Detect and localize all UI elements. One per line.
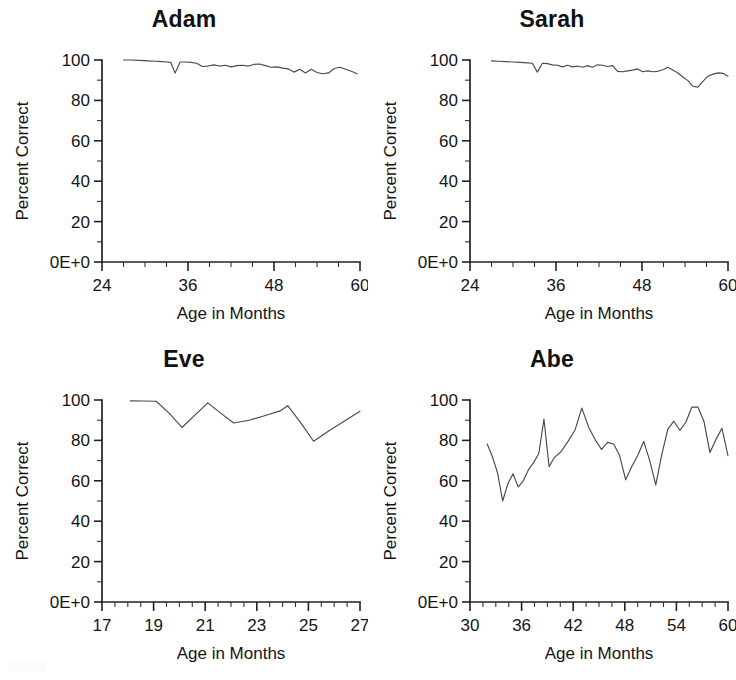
multi-panel-figure: Adam 0E+02040608010024364860Age in Month… — [0, 0, 736, 680]
x-tick-label: 36 — [512, 616, 531, 635]
y-tick-label: 100 — [430, 391, 458, 410]
y-tick-label: 0E+0 — [418, 593, 458, 612]
y-tick-label: 20 — [439, 213, 458, 232]
y-tick-label: 20 — [71, 553, 90, 572]
y-tick-label: 100 — [430, 51, 458, 70]
x-tick-label: 25 — [299, 616, 318, 635]
x-tick-label: 60 — [719, 616, 736, 635]
x-tick-label: 48 — [615, 616, 634, 635]
x-tick-label: 27 — [351, 616, 368, 635]
data-series-line — [492, 61, 729, 87]
x-axis-title: Age in Months — [545, 644, 654, 663]
y-tick-label: 60 — [71, 472, 90, 491]
panel-abe: Abe 0E+020406080100303642485460Age in Mo… — [368, 340, 736, 680]
x-tick-label: 42 — [564, 616, 583, 635]
data-series-line — [487, 407, 728, 501]
x-axis-title: Age in Months — [545, 304, 654, 323]
x-tick-label: 54 — [667, 616, 686, 635]
y-tick-label: 60 — [439, 472, 458, 491]
data-series-line — [130, 401, 360, 441]
data-series-line — [124, 60, 358, 74]
y-tick-label: 100 — [62, 391, 90, 410]
y-axis-title: Percent Correct — [381, 101, 400, 220]
y-axis-title: Percent Correct — [381, 441, 400, 560]
x-tick-label: 21 — [196, 616, 215, 635]
y-axis-title: Percent Correct — [13, 441, 32, 560]
x-tick-label: 48 — [265, 276, 284, 295]
y-tick-label: 100 — [62, 51, 90, 70]
y-tick-label: 80 — [71, 91, 90, 110]
chart-svg-eve: 0E+020406080100171921232527Age in Months… — [0, 340, 368, 680]
y-tick-label: 40 — [71, 172, 90, 191]
panel-eve: Eve 0E+020406080100171921232527Age in Mo… — [0, 340, 368, 680]
y-tick-label: 0E+0 — [418, 253, 458, 272]
chart-svg-adam: 0E+02040608010024364860Age in MonthsPerc… — [0, 0, 368, 340]
x-tick-label: 36 — [179, 276, 198, 295]
y-tick-label: 40 — [439, 512, 458, 531]
x-axis-title: Age in Months — [177, 304, 286, 323]
x-tick-label: 30 — [461, 616, 480, 635]
y-tick-label: 80 — [439, 91, 458, 110]
y-tick-label: 20 — [71, 213, 90, 232]
chart-svg-abe: 0E+020406080100303642485460Age in Months… — [368, 340, 736, 680]
panel-grid: Adam 0E+02040608010024364860Age in Month… — [0, 0, 736, 680]
x-tick-label: 23 — [247, 616, 266, 635]
panel-sarah: Sarah 0E+02040608010024364860Age in Mont… — [368, 0, 736, 340]
chart-svg-sarah: 0E+02040608010024364860Age in MonthsPerc… — [368, 0, 736, 340]
scan-artifact — [8, 660, 46, 672]
x-tick-label: 17 — [93, 616, 112, 635]
y-tick-label: 20 — [439, 553, 458, 572]
x-tick-label: 48 — [633, 276, 652, 295]
x-tick-label: 60 — [351, 276, 368, 295]
y-tick-label: 80 — [439, 431, 458, 450]
x-tick-label: 24 — [93, 276, 112, 295]
y-tick-label: 0E+0 — [50, 593, 90, 612]
y-tick-label: 40 — [71, 512, 90, 531]
x-tick-label: 19 — [144, 616, 163, 635]
x-tick-label: 60 — [719, 276, 736, 295]
y-tick-label: 0E+0 — [50, 253, 90, 272]
x-tick-label: 36 — [547, 276, 566, 295]
x-axis-title: Age in Months — [177, 644, 286, 663]
y-axis-title: Percent Correct — [13, 101, 32, 220]
x-tick-label: 24 — [461, 276, 480, 295]
y-tick-label: 40 — [439, 172, 458, 191]
panel-adam: Adam 0E+02040608010024364860Age in Month… — [0, 0, 368, 340]
y-tick-label: 80 — [71, 431, 90, 450]
y-tick-label: 60 — [71, 132, 90, 151]
y-tick-label: 60 — [439, 132, 458, 151]
